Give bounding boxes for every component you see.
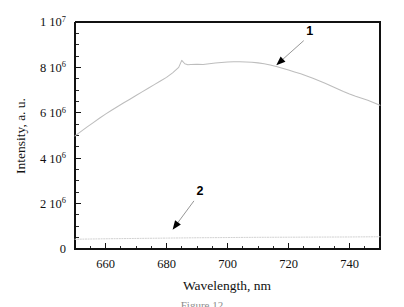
chart-canvas: 02 1064 1066 1068 1061 107 6606807007207…	[0, 0, 404, 307]
series-1-line	[75, 60, 380, 136]
series-label-2: 2	[197, 184, 204, 198]
y-axis-title: Intensity, a. u.	[13, 98, 28, 174]
figure-caption: Figure 12	[0, 299, 404, 307]
series-2-line	[75, 237, 380, 240]
x-axis-tick-labels: 660680700720740	[96, 257, 359, 271]
x-tick-label: 720	[279, 257, 298, 271]
x-tick-label: 680	[157, 257, 176, 271]
x-axis-title: Wavelength, nm	[183, 278, 272, 293]
figure-container: 02 1064 1066 1068 1061 107 6606807007207…	[0, 0, 404, 307]
y-tick-label: 0	[60, 242, 66, 256]
y-tick-label: 2 106	[40, 196, 66, 211]
y-tick-label: 4 106	[40, 151, 66, 166]
x-tick-label: 740	[340, 257, 359, 271]
series-label-1: 1	[306, 24, 313, 38]
y-tick-label: 6 106	[40, 106, 66, 121]
y-tick-label: 8 106	[40, 60, 66, 75]
x-axis-ticks	[75, 243, 380, 249]
annotation-arrow-head	[173, 220, 181, 229]
x-tick-label: 660	[96, 257, 115, 271]
plot-frame	[75, 22, 380, 249]
y-axis-tick-labels: 02 1064 1066 1068 1061 107	[40, 15, 66, 257]
annotation-layer: 12	[173, 24, 314, 230]
x-tick-label: 700	[218, 257, 237, 271]
annotation-arrow-line	[282, 41, 304, 61]
y-tick-label: 1 107	[40, 15, 66, 30]
annotation-arrow-line	[177, 201, 194, 224]
